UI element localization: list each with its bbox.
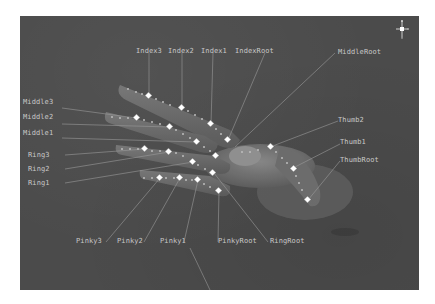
label-pinky2[interactable]: Pinky2 <box>117 237 143 245</box>
label-index-root[interactable]: IndexRoot <box>235 47 274 55</box>
label-pinky3[interactable]: Pinky3 <box>76 237 102 245</box>
view-orientation-gizmo-icon[interactable] <box>391 18 413 44</box>
label-ring2[interactable]: Ring2 <box>28 165 50 173</box>
label-thumb-root[interactable]: ThumbRoot <box>340 156 379 164</box>
label-index1[interactable]: Index1 <box>201 47 227 55</box>
label-ring1[interactable]: Ring1 <box>28 179 50 187</box>
label-thumb1[interactable]: Thumb1 <box>340 138 366 146</box>
label-middle3[interactable]: Middle3 <box>23 98 53 106</box>
label-pinky1[interactable]: Pinky1 <box>160 237 186 245</box>
label-middle2[interactable]: Middle2 <box>23 113 53 121</box>
hand-mesh <box>105 85 353 220</box>
label-pinky-root[interactable]: PinkyRoot <box>218 237 257 245</box>
label-middle-root[interactable]: MiddleRoot <box>338 48 381 56</box>
hand-rig-scene <box>20 16 419 290</box>
label-ring3[interactable]: Ring3 <box>28 151 50 159</box>
label-thumb2[interactable]: Thumb2 <box>338 116 364 124</box>
label-index2[interactable]: Index2 <box>168 47 194 55</box>
label-middle1[interactable]: Middle1 <box>23 129 53 137</box>
floor-shadow <box>331 228 359 236</box>
label-index3[interactable]: Index3 <box>136 47 162 55</box>
label-ring-root[interactable]: RingRoot <box>270 237 305 245</box>
3d-viewport[interactable]: Index3 Index2 Index1 IndexRoot MiddleRoo… <box>20 16 419 290</box>
